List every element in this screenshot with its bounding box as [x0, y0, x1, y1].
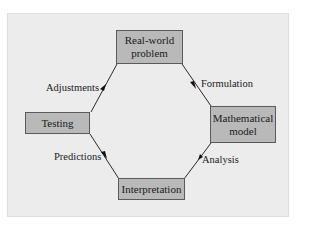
edge-label-formulation: Formulation	[201, 78, 253, 89]
arrow-predictions-icon	[101, 151, 107, 159]
node-label: Real-world	[125, 34, 174, 47]
node-label: Testing	[41, 117, 73, 130]
node-label: Mathematical	[213, 112, 273, 125]
node-mathematical-model: Mathematical model	[210, 106, 276, 143]
node-label: model	[229, 125, 257, 138]
edge-label-adjustments: Adjustments	[46, 82, 99, 93]
node-testing: Testing	[25, 112, 90, 134]
edge-label-predictions: Predictions	[54, 151, 101, 162]
node-interpretation: Interpretation	[118, 178, 185, 200]
node-label: Interpretation	[122, 183, 182, 196]
node-real-world-problem: Real-world problem	[116, 30, 183, 64]
edge-label-analysis: Analysis	[202, 154, 239, 165]
node-label: problem	[131, 47, 168, 60]
arrow-adjustments-icon	[100, 84, 106, 91]
